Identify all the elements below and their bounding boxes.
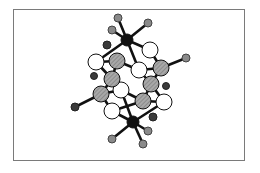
open-atom xyxy=(88,54,104,70)
atom-group xyxy=(71,14,190,148)
ligand-dark-atom xyxy=(149,113,157,121)
hatched-atom xyxy=(143,76,159,92)
hatched-atom xyxy=(153,60,169,76)
hatched-atom xyxy=(104,71,120,87)
hatched-atom xyxy=(135,93,151,109)
ligand-dark-atom xyxy=(163,83,170,90)
open-atom xyxy=(156,94,172,110)
open-atom xyxy=(142,42,158,58)
open-atom xyxy=(104,103,120,119)
ligand-grey-atom xyxy=(108,135,116,143)
open-atom xyxy=(131,62,147,78)
molecule-diagram xyxy=(0,0,260,173)
ligand-dark-atom xyxy=(71,103,79,111)
hatched-atom xyxy=(109,53,125,69)
ligand-grey-atom xyxy=(139,140,147,148)
hatched-atom xyxy=(93,86,109,102)
ligand-grey-atom xyxy=(182,54,190,62)
ligand-grey-atom xyxy=(108,26,116,34)
ligand-grey-atom xyxy=(144,19,152,27)
ligand-dark-atom xyxy=(91,73,98,80)
ligand-dark-atom xyxy=(103,41,111,49)
ligand-grey-atom xyxy=(144,127,152,135)
metal-atom xyxy=(121,34,133,46)
metal-atom xyxy=(127,116,139,128)
ligand-grey-atom xyxy=(114,14,122,22)
